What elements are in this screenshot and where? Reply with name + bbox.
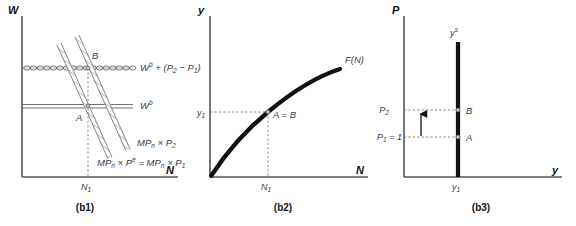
b3-y-axis-label: P (392, 4, 400, 16)
b3-point-B-label: B (466, 105, 473, 116)
b2-x-axis-label: N (356, 164, 365, 176)
b2-curve-label: F(N) (345, 54, 364, 65)
economics-three-panel-figure: W N (0, 0, 576, 226)
b1-point-B-marker (86, 66, 90, 70)
b3-x-axis-label: y (551, 164, 559, 176)
b3-point-A-marker (456, 135, 460, 139)
b1-point-A-marker (86, 104, 90, 108)
b2-caption: (b2) (274, 202, 292, 213)
b1-labor-demand-expected-label: MPn × Pe = MPn × P1 (97, 156, 186, 169)
b2-point-AB-marker (266, 110, 270, 114)
b1-caption: (b1) (76, 202, 94, 213)
b1-point-A-label: A (75, 112, 82, 123)
b1-point-B-label: B (92, 50, 99, 61)
b3-caption: (b3) (472, 202, 490, 213)
b3-point-B-marker (456, 108, 460, 112)
b1-y-axis-label: W (8, 4, 20, 16)
b3-y-tick-lower-label: P1 = 1 (377, 132, 402, 143)
b3-point-A-label: A (465, 132, 472, 143)
b2-y-axis-label: y (197, 4, 205, 16)
b2-point-AB-label: A = B (272, 109, 297, 120)
b1-labor-demand-new-price-label: MPn × P2 (137, 137, 176, 149)
